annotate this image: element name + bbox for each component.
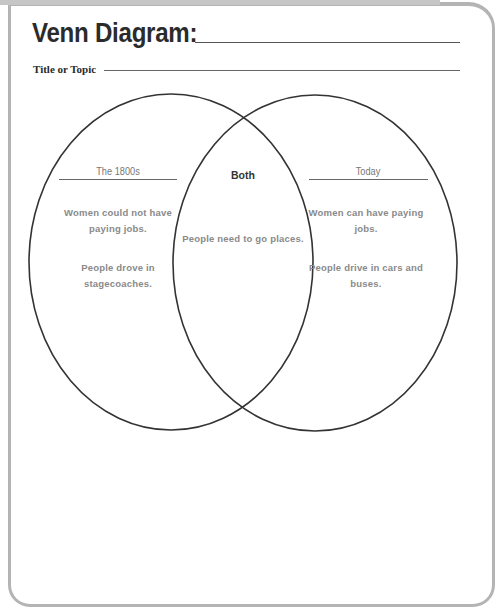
left-entry: People drove in stagecoaches. [53,260,183,292]
middle-heading: Both [203,169,283,181]
left-heading: The 1800s [63,166,173,177]
left-heading-rule [59,179,177,180]
left-entry: Women could not have paying jobs. [53,205,183,237]
right-heading-rule [309,179,428,180]
venn-diagram [0,0,497,607]
right-heading: Today [313,166,423,177]
right-entry: Women can have paying jobs. [301,205,431,237]
middle-entry: People need to go places. [173,231,313,247]
right-entry: People drive in cars and buses. [301,260,431,292]
